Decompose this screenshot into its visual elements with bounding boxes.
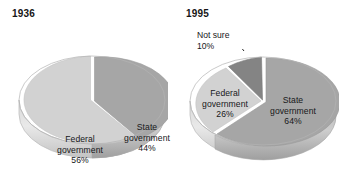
panel-title-1995: 1995 — [186, 8, 209, 19]
pie-chart-pair: 1936 — [0, 0, 346, 179]
slice-label-line2: government — [42, 145, 118, 156]
slice-label-line1: State — [116, 122, 178, 133]
slice-value: 26% — [189, 109, 261, 120]
slice-value: 44% — [116, 143, 178, 154]
slice-value: 56% — [42, 155, 118, 166]
slice-label-line1: State — [259, 95, 327, 106]
slice-value: 64% — [259, 116, 327, 127]
slice-label-line1: Federal — [189, 88, 261, 99]
panel-1995: 1995 — [173, 0, 346, 179]
slice-label-line2: government — [259, 106, 327, 117]
callout-value: 10% — [197, 41, 253, 52]
slice-label-line2: government — [189, 99, 261, 110]
pie-stage-1936: Federal government 56% State government … — [16, 48, 168, 160]
slice-label-1995-state: State government 64% — [259, 95, 327, 127]
panel-1936: 1936 — [0, 0, 173, 179]
callout-label-line1: Not sure — [197, 30, 253, 41]
slice-label-1995-federal: Federal government 26% — [189, 88, 261, 120]
slice-label-line1: Federal — [42, 134, 118, 145]
slice-label-1936-federal: Federal government 56% — [42, 134, 118, 166]
slice-label-line2: government — [116, 133, 178, 144]
slice-label-1936-state: State government 44% — [116, 122, 178, 154]
panel-title-1936: 1936 — [12, 8, 35, 19]
callout-label-1995-notsure: Not sure 10% — [197, 30, 253, 51]
pie-stage-1995: Not sure 10% Federal government 26% Stat… — [187, 49, 339, 161]
